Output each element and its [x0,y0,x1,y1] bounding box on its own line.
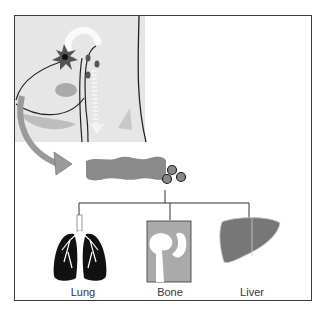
lung-icon [54,215,107,281]
torso-tumor-illustration [15,16,146,142]
bone-icon [147,221,191,282]
branch-connector [79,190,249,220]
liver-icon [220,218,280,263]
lung-label: Lung [53,286,113,298]
diagram-art [0,0,323,317]
bone-label: Bone [140,286,200,298]
liver-label: Liver [222,286,282,298]
blood-vessel-with-tumor-cells [86,157,186,184]
